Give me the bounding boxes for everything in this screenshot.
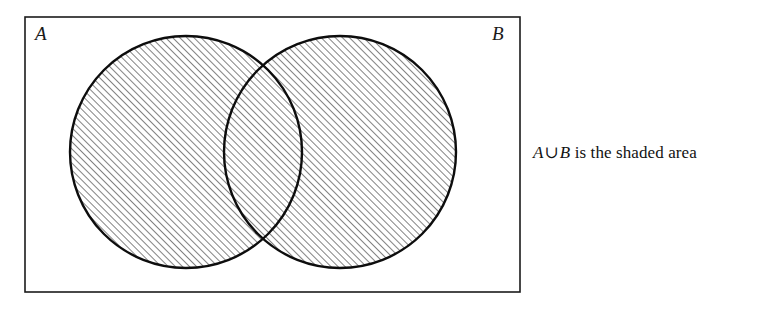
caption-tail-text: is the shaded area (575, 143, 697, 162)
figure-caption: A∪B is the shaded area (533, 143, 697, 163)
set-b-label: B (492, 24, 504, 43)
venn-diagram-figure: A B A∪B is the shaded area (0, 0, 772, 311)
caption-set-b: B (560, 143, 570, 162)
set-a-label: A (35, 24, 47, 43)
caption-union-operator: ∪ (543, 143, 559, 162)
caption-set-a: A (533, 143, 543, 162)
